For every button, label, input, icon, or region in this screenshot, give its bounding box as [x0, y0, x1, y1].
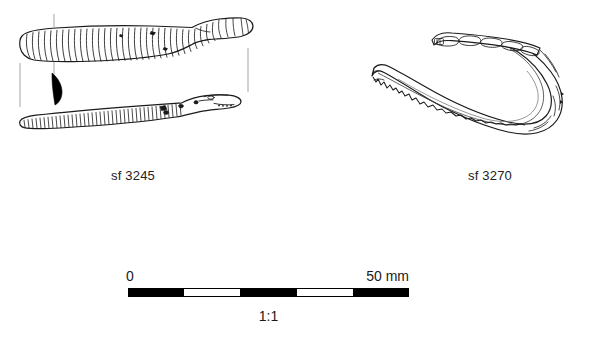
scale-bar — [128, 288, 409, 297]
scale-segment-4 — [297, 288, 353, 297]
scale-max-label: 50 mm — [366, 268, 409, 284]
scale-segment-5 — [353, 288, 409, 297]
scale-bar-end-labels: 0 50 mm — [128, 268, 409, 288]
scale-segment-2 — [184, 288, 240, 297]
scale-segment-3 — [240, 288, 296, 297]
scale-ratio-label: 1:1 — [128, 308, 409, 324]
scale-segment-1 — [128, 288, 184, 297]
scale-bar-block: 0 50 mm — [128, 268, 409, 297]
figure-label-sf-3270: sf 3270 — [425, 168, 555, 183]
figure-label-sf-3245: sf 3245 — [68, 168, 198, 183]
scale-zero-label: 0 — [126, 268, 134, 284]
